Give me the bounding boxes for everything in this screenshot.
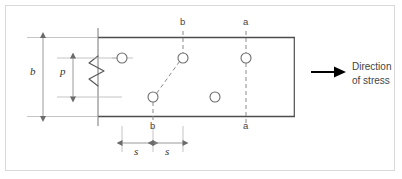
label-section-b-bottom: b: [150, 121, 155, 131]
hole-top-1: [117, 53, 127, 63]
section-line-b-b: [153, 31, 183, 123]
hole-top-2: [178, 53, 188, 63]
dimension-b: [27, 38, 98, 117]
plate-outline: [98, 37, 295, 117]
figure-root: b p s s b b a a Direction of stress: [0, 0, 402, 179]
break-symbol: [89, 28, 104, 126]
label-stress-direction-line2: of stress: [352, 74, 390, 88]
stress-direction-arrow: [311, 67, 346, 78]
label-pitch-p: p: [60, 66, 66, 77]
label-section-b-top: b: [180, 17, 185, 27]
label-plate-width-b: b: [30, 66, 36, 77]
hole-bottom-2: [210, 92, 220, 102]
label-stagger-s-left: s: [134, 146, 138, 157]
hole-bottom-1: [148, 92, 158, 102]
label-section-a-bottom: a: [243, 121, 248, 131]
hole-top-3: [241, 53, 251, 63]
label-stagger-s-right: s: [165, 146, 169, 157]
label-stress-direction-line1: Direction: [352, 60, 391, 74]
label-section-a-top: a: [243, 17, 248, 27]
engineering-diagram: [0, 0, 402, 179]
